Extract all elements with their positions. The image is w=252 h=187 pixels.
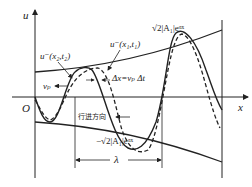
leader-u-t1 (108, 50, 120, 70)
origin-label: O (22, 103, 30, 114)
wave-t2-label: u⁻(x₂,t₂) (40, 52, 70, 61)
diagram-graphics (0, 0, 252, 187)
direction-label: 行进方向 (78, 114, 106, 121)
x-axis-label: x (238, 102, 243, 113)
wave-t1-label: u⁻(x₁,t₁) (110, 40, 140, 49)
lower-envelope-label: −√2|A₁|eᵅˣ (96, 137, 133, 146)
wave-diagram: u x O u⁻(x₂,t₂) u⁻(x₁,t₁) √2|A₁|eᵅˣ −√2|… (0, 0, 252, 187)
phase-velocity-label: vₚ (43, 82, 51, 91)
delta-x-label: Δx=vₚ Δt (112, 74, 145, 83)
y-axis-label: u (23, 10, 29, 21)
upper-envelope-label: √2|A₁|eᵅˣ (152, 24, 184, 33)
wavelength-label: λ (114, 154, 119, 165)
